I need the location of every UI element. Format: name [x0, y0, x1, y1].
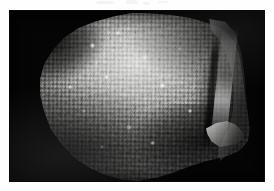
scan-artifact-speckle: [158, 1, 168, 3]
specimen-photograph: [10, 11, 264, 181]
figure-caption: [0, 0, 1, 1]
figure-plate: Grayscale photograph of a rounded specim…: [10, 11, 264, 181]
scanned-page-sheet: Grayscale photograph of a rounded specim…: [0, 0, 274, 191]
scan-artifact-speckle: [126, 0, 138, 4]
scan-artifact-speckle: [143, 2, 150, 5]
scan-artifact-speckle: [96, 1, 114, 4]
